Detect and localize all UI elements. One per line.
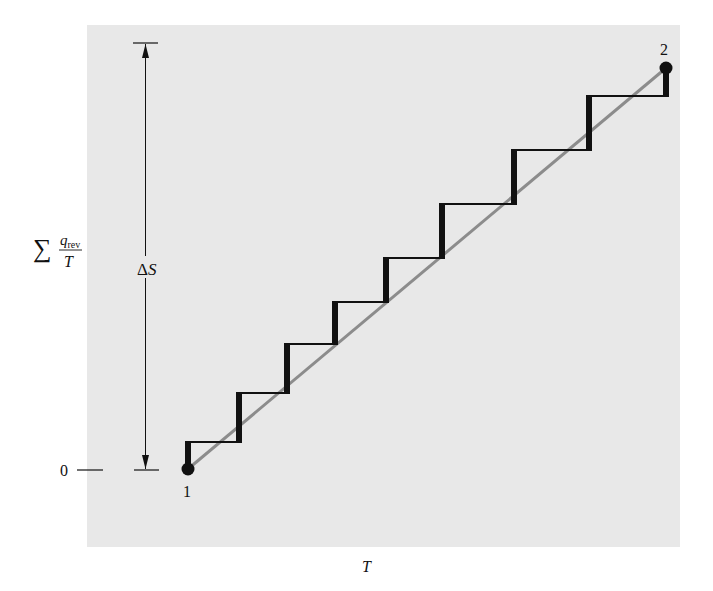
state-2-point [660,62,673,75]
state-2-label: 2 [660,41,668,58]
state-1-point [182,463,195,476]
x-axis-label: T [362,558,372,575]
sum-symbol: ∑ [33,234,52,263]
numerator: qrev [60,232,80,250]
zero-label: 0 [60,462,68,479]
entropy-staircase-diagram: ΔS 0 ∑ qrev T [0,0,713,591]
delta-s-label: ΔS [137,260,157,279]
denominator: T [64,253,74,270]
y-axis-label: ∑ qrev T [33,232,82,270]
state-1-label: 1 [183,483,191,500]
